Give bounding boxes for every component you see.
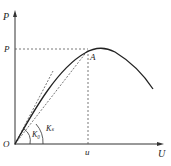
y-axis-label: P [2, 11, 9, 22]
load-displacement-diagram: P P A O u U K₀ Kₛ [0, 0, 171, 166]
y-axis-arrow [13, 10, 17, 17]
initial-stiffness-label: K₀ [31, 130, 40, 139]
origin-label: O [3, 139, 10, 149]
secant-stiffness-label: Kₛ [45, 124, 55, 133]
initial-angle-arc [24, 129, 30, 144]
x-axis-arrow [157, 142, 164, 146]
x-axis-label: U [158, 148, 166, 159]
peak-load-label: P [3, 44, 10, 54]
peak-point-label: A [89, 52, 96, 62]
peak-displacement-label: u [85, 147, 90, 157]
